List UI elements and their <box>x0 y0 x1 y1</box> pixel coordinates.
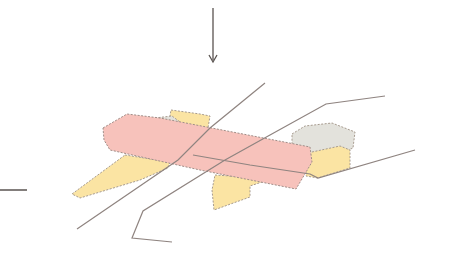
diagram-canvas <box>0 0 451 276</box>
wing-left-volume <box>72 155 170 198</box>
axonometric-diagram <box>0 0 451 276</box>
